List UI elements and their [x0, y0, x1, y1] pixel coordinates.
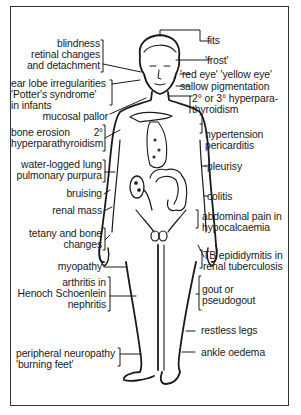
label-line: bruising: [10, 188, 102, 199]
label-line: arthritis in: [10, 277, 106, 288]
torso-outline: [99, 92, 217, 262]
kidney-organ: [130, 176, 152, 210]
label-line: changes: [10, 239, 102, 250]
label-line: bone erosion2°: [11, 127, 103, 138]
heart-lung-organs: [130, 112, 172, 167]
label-hypertension: hypertension pericarditis: [205, 129, 263, 151]
label-line: 'red eye' 'yellow eye': [180, 69, 272, 80]
label-arthritis: arthritis in Henoch Schoenlein nephritis: [10, 277, 106, 310]
colon-organ: [150, 169, 187, 210]
label-line: thyroidism: [192, 104, 278, 115]
label-line: 2° or 3° hyperpara-: [192, 93, 278, 104]
label-line: sallow pigmentation: [180, 81, 269, 92]
label-line: nephritis: [10, 299, 106, 310]
label-line: 'Potter's syndrome': [11, 89, 106, 100]
label-line: myopathy: [10, 261, 102, 272]
label-bone-erosion: bone erosion2° hyperparathyroidism: [11, 127, 103, 149]
label-line: water-logged lung: [10, 159, 102, 170]
label-line: blindness: [10, 38, 100, 49]
label-line: colitis: [207, 191, 232, 202]
label-line: restless legs: [201, 325, 257, 336]
superscript-2nd: 2°: [94, 127, 103, 138]
label-sallow: sallow pigmentation: [180, 81, 269, 92]
label-line: fits: [207, 35, 220, 46]
face-features: [150, 66, 170, 85]
label-line: renal mass: [10, 205, 102, 216]
label-red-eye: 'red eye' 'yellow eye': [180, 69, 272, 80]
label-hyperparathyroidism: 2° or 3° hyperpara- thyroidism: [192, 93, 278, 115]
label-line: ankle oedema: [201, 347, 265, 358]
label-myopathy: myopathy: [10, 261, 102, 272]
left-leader-lines: [101, 40, 146, 366]
pelvis-outline: [136, 210, 186, 241]
label-renal-mass: renal mass: [10, 205, 102, 216]
label-line: 'burning feet': [16, 359, 115, 370]
label-restless-legs: restless legs: [201, 325, 257, 336]
label-line: Henoch Schoenlein: [10, 288, 106, 299]
label-line: abdominal pain in: [202, 211, 282, 222]
label-abdominal-pain: abdominal pain in hypocalcaemia: [202, 211, 282, 233]
label-mucosal-pallor: mucosal pallor: [10, 111, 108, 122]
label-bruising: bruising: [10, 188, 102, 199]
label-line: pericarditis: [205, 140, 263, 151]
label-line: hypocalcaemia: [202, 222, 282, 233]
label-gout: gout or pseudogout: [202, 284, 255, 306]
label-colitis: colitis: [207, 191, 232, 202]
label-line: tetany and bone: [10, 228, 102, 239]
label-line: ear lobe irregularities: [11, 78, 106, 89]
label-frost: 'frost': [205, 55, 228, 66]
label-line: hypertension: [205, 129, 263, 140]
label-text: bone erosion: [11, 127, 70, 138]
label-line: hyperparathyroidism: [11, 138, 103, 149]
label-tb-epididymitis: TB epididymitis in renal tuberculosis: [203, 250, 283, 272]
label-line: 'frost': [205, 55, 228, 66]
legs-outline: [124, 245, 196, 384]
label-ankle-oedema: ankle oedema: [201, 347, 265, 358]
label-line: pleurisy: [207, 161, 242, 172]
label-line: gout or: [202, 284, 255, 295]
label-line: TB epididymitis in: [203, 250, 283, 261]
label-lung: water-logged lung pulmonary purpura: [10, 159, 102, 181]
label-line: retinal changes: [10, 49, 100, 60]
label-neuropathy: peripheral neuropathy 'burning feet': [16, 348, 115, 370]
label-tetany: tetany and bone changes: [10, 228, 102, 250]
label-line: peripheral neuropathy: [16, 348, 115, 359]
label-line: pseudogout: [202, 295, 255, 306]
label-ear-lobe: ear lobe irregularities 'Potter's syndro…: [11, 78, 106, 111]
label-line: renal tuberculosis: [203, 261, 283, 272]
label-blindness: blindness retinal changes and detachment: [10, 38, 100, 71]
label-line: in infants: [11, 100, 106, 111]
label-line: mucosal pallor: [10, 111, 108, 122]
label-fits: fits: [207, 35, 220, 46]
label-line: pulmonary purpura: [10, 170, 102, 181]
label-pleurisy: pleurisy: [207, 161, 242, 172]
label-line: and detachment: [10, 60, 100, 71]
